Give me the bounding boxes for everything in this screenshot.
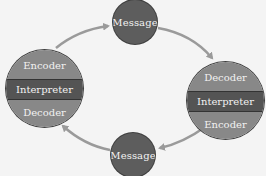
right-decoder-label: Decoder — [204, 72, 247, 83]
communication-diagram: Message Message Encoder Interpreter Deco… — [0, 0, 266, 176]
arrow-top-to-right — [158, 28, 212, 58]
top-message-label: Message — [113, 17, 157, 28]
arrow-right-to-bottom — [160, 127, 205, 148]
right-encoder-label: Encoder — [204, 119, 246, 130]
left-communicator-node: Encoder Interpreter Decoder — [6, 50, 83, 127]
left-interpreter-label: Interpreter — [16, 84, 73, 95]
left-decoder-label: Decoder — [23, 107, 66, 118]
right-interpreter-band: Interpreter — [187, 91, 264, 112]
bottom-message-label: Message — [111, 150, 155, 161]
bottom-message-node: Message — [111, 133, 155, 176]
left-encoder-label: Encoder — [23, 60, 65, 71]
left-interpreter-band: Interpreter — [6, 79, 83, 100]
top-message-node: Message — [113, 0, 157, 44]
arrow-bottom-to-left — [63, 126, 110, 150]
right-communicator-node: Decoder Interpreter Encoder — [187, 62, 264, 139]
arrow-left-to-top — [56, 26, 108, 48]
right-interpreter-label: Interpreter — [197, 96, 254, 107]
